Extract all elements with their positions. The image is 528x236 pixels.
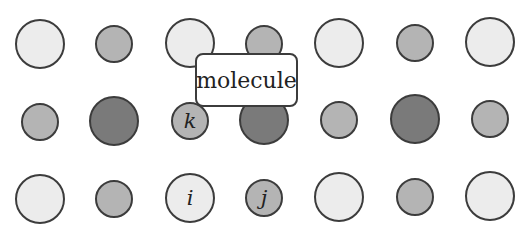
atom-r1-c2 bbox=[95, 25, 133, 63]
atom-r1-c1 bbox=[15, 19, 65, 69]
atom-label: i bbox=[187, 188, 194, 209]
atom-j: j bbox=[245, 179, 283, 217]
atom-r2-c2 bbox=[89, 96, 139, 146]
atom-r1-c5 bbox=[314, 18, 364, 68]
atom-label: k bbox=[184, 111, 197, 132]
atom-label: j bbox=[261, 188, 268, 209]
atom-r2-c5 bbox=[320, 101, 358, 139]
atom-r3-c1 bbox=[15, 174, 65, 224]
atom-r2-c7 bbox=[471, 100, 509, 138]
atom-r3-c5 bbox=[314, 172, 364, 222]
molecule-lattice-diagram: kij bbox=[0, 0, 528, 236]
atom-k: k bbox=[171, 102, 209, 140]
atom-r3-c6 bbox=[396, 178, 434, 216]
atom-r1-c6 bbox=[396, 24, 434, 62]
molecule-label-box: molecule bbox=[195, 53, 298, 107]
atom-r3-c7 bbox=[465, 171, 515, 221]
molecule-label: molecule bbox=[196, 68, 297, 93]
atom-r3-c2 bbox=[95, 180, 133, 218]
atom-r2-c6 bbox=[390, 94, 440, 144]
atom-r1-c7 bbox=[465, 17, 515, 67]
atom-i: i bbox=[165, 173, 215, 223]
atom-r2-c1 bbox=[21, 103, 59, 141]
